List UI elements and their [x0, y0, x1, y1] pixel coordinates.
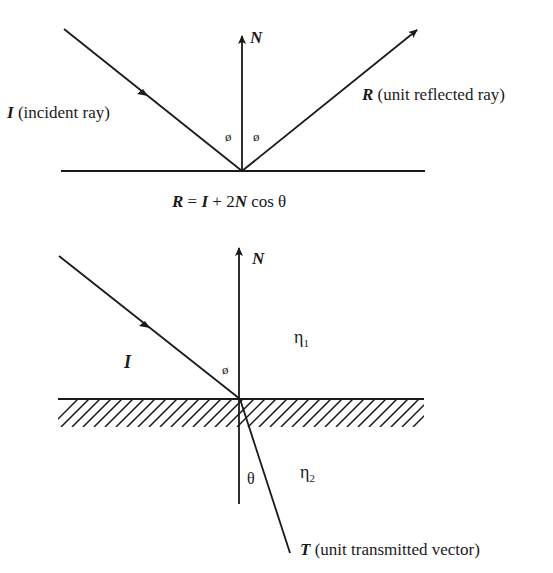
reflected-ray-label: R (unit reflected ray): [361, 85, 505, 104]
incident-ray-2: [59, 256, 240, 399]
incident-symbol-2: I: [123, 352, 132, 372]
refraction-diagram: N I ø θ η1 η2 T (unit transmitted vector…: [50, 248, 480, 559]
eq-cos: cos θ: [247, 192, 286, 211]
normal-label-2: N: [251, 249, 265, 268]
reflection-refraction-diagram: N I (incident ray) R (unit reflected ray…: [0, 0, 553, 573]
eq-n: N: [234, 192, 248, 211]
transmitted-symbol: T: [300, 540, 311, 559]
incident-ray-label: I (incident ray): [6, 103, 110, 122]
angle-phi-incident: ø: [222, 362, 229, 377]
eta-2-subscript: 2: [309, 472, 315, 484]
normal-label: N: [249, 28, 263, 47]
medium1-label: η1: [294, 327, 309, 349]
eta-1: η: [294, 327, 303, 347]
incident-arrow-icon: [137, 89, 148, 96]
reflected-symbol: R: [361, 85, 373, 104]
medium2-label: η2: [300, 462, 315, 484]
hatched-medium-boundary: [50, 399, 441, 427]
transmitted-text: (unit transmitted vector): [310, 540, 479, 559]
incident-ray: [64, 29, 242, 171]
angle-phi-right: ø: [253, 129, 260, 144]
eta-1-subscript: 1: [303, 337, 309, 349]
eq-equals: =: [183, 192, 201, 211]
eq-r: R: [171, 192, 183, 211]
eta-2: η: [300, 462, 309, 482]
transmitted-vector-label: T (unit transmitted vector): [300, 540, 480, 559]
eq-plus: + 2: [208, 192, 235, 211]
incident-arrow-icon-2: [139, 321, 150, 328]
incident-text: (incident ray): [14, 103, 110, 122]
angle-phi-left: ø: [225, 129, 232, 144]
angle-theta-transmitted: θ: [247, 470, 255, 487]
reflection-equation: R = I + 2N cos θ: [171, 192, 286, 211]
reflection-diagram: N I (incident ray) R (unit reflected ray…: [6, 28, 505, 211]
reflected-text: (unit reflected ray): [373, 85, 505, 104]
